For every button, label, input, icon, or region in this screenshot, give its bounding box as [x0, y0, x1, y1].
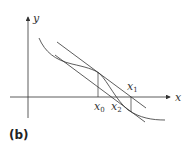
x-axis-label: x — [175, 91, 182, 104]
tangent-line-1 — [57, 42, 146, 108]
x1-label: x1 — [127, 80, 138, 94]
x0-label: x0 — [94, 100, 105, 114]
newton-method-diagram: x y x0 x2 x1 (b) — [0, 0, 185, 150]
figure-caption: (b) — [9, 128, 29, 142]
y-axis-label: y — [32, 12, 40, 25]
